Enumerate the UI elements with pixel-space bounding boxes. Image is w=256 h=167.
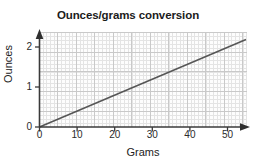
chart-figure: Ounces/grams conversion 0 1 2 0 10 20 30… [0,0,256,167]
x-tick-label-0: 0 [29,129,51,140]
x-tick-label-20: 20 [104,129,126,140]
chart-title: Ounces/grams conversion [0,9,256,22]
x-tick-label-30: 30 [141,129,163,140]
y-axis-label: Ounces [2,33,14,95]
plot-grid-area [39,32,247,127]
x-axis-label: Grams [39,146,247,158]
y-tick-label-2: 2 [18,41,32,52]
x-tick-label-10: 10 [66,129,88,140]
x-tick-label-50: 50 [217,129,239,140]
x-tick-label-40: 40 [179,129,201,140]
y-tick-label-1: 1 [18,81,32,92]
